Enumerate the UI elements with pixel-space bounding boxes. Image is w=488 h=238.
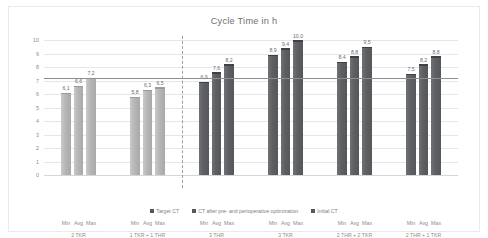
x-axis-tick-label: Max [155, 220, 165, 226]
bar-cap [199, 82, 209, 84]
bar-cap [268, 55, 278, 57]
y-axis-tick-label: 5 [36, 105, 39, 111]
x-axis-tick-label: Min [200, 220, 209, 226]
x-axis-group-label: 3 THR [209, 232, 224, 238]
chart-container: Cycle Time in h 012345678910 6,16,67,25,… [0, 0, 488, 238]
bar-fill [419, 64, 429, 175]
legend-item[interactable]: CT after pre- and perioperative optimiza… [192, 208, 298, 214]
bar: 8,8 [431, 56, 441, 175]
x-axis-tick-label: Min [131, 220, 140, 226]
bar-cap [406, 74, 416, 76]
gridline [44, 175, 458, 176]
chart-title: Cycle Time in h [0, 16, 488, 26]
y-axis-tick-label: 10 [33, 37, 39, 43]
x-axis-group-label: 1 TKR + 1 THR [130, 232, 165, 238]
gridline [44, 81, 458, 82]
bar-value-label: 10,0 [293, 33, 303, 39]
bar-cap [350, 56, 360, 58]
y-axis-tick-label: 6 [36, 91, 39, 97]
bar-cap [61, 93, 71, 95]
bar: 9,5 [362, 47, 372, 175]
bar-value-label: 7,2 [87, 70, 94, 76]
bar-cap [155, 87, 165, 89]
bar-cap [143, 90, 153, 92]
gridline [44, 121, 458, 122]
bar-value-label: 8,4 [338, 54, 345, 60]
plot-area: 012345678910 6,16,67,25,86,36,56,97,68,2… [44, 40, 458, 175]
bar: 7,5 [406, 74, 416, 175]
bar-value-label: 7,6 [213, 65, 220, 71]
gridline [44, 148, 458, 149]
bar-fill [199, 82, 209, 175]
bar: 7,2 [86, 78, 96, 175]
bar-fill [406, 74, 416, 175]
bar-value-label: 5,8 [131, 89, 138, 95]
x-axis-group-label: 3 TKR [278, 232, 293, 238]
bar-cap [293, 40, 303, 42]
bar-value-label: 9,4 [282, 41, 289, 47]
x-axis-tick-label: Max [86, 220, 96, 226]
x-axis-group-label: 2 TKR [71, 232, 86, 238]
bar-value-label: 8,2 [420, 57, 427, 63]
bar-fill [293, 40, 303, 175]
y-axis-tick-label: 4 [36, 118, 39, 124]
x-axis-tick-label: Min [62, 220, 71, 226]
bar: 5,8 [130, 97, 140, 175]
y-axis-tick-label: 7 [36, 78, 39, 84]
chart-legend: Target CTCT after pre- and perioperative… [0, 208, 488, 214]
legend-label: CT after pre- and perioperative optimiza… [198, 208, 298, 214]
x-axis-tick-label: Avg [350, 220, 359, 226]
x-axis-tick-label: Max [224, 220, 234, 226]
x-axis-group-label: 2 THR + 2 TKR [337, 232, 372, 238]
x-axis-group-label: 2 THR + 1 TKR [406, 232, 441, 238]
bar-fill [86, 78, 96, 175]
bar: 6,6 [74, 86, 84, 175]
bar: 8,8 [350, 56, 360, 175]
x-axis-tick-label: Min [338, 220, 347, 226]
bar: 10,0 [293, 40, 303, 175]
bar: 6,9 [199, 82, 209, 175]
bar: 9,4 [281, 48, 291, 175]
bar-fill [268, 55, 278, 175]
x-axis-tick-label: Avg [281, 220, 290, 226]
bar: 6,1 [61, 93, 71, 175]
bar: 6,5 [155, 87, 165, 175]
bar-fill [431, 56, 441, 175]
bar-fill [130, 97, 140, 175]
gridline [44, 162, 458, 163]
legend-swatch-icon [192, 209, 196, 213]
bar-cap [224, 64, 234, 66]
y-axis-tick-label: 9 [36, 51, 39, 57]
bar-value-label: 9,5 [363, 39, 370, 45]
bar-cap [74, 86, 84, 88]
y-axis-tick-label: 0 [36, 172, 39, 178]
group-separator-line [182, 36, 183, 188]
bar: 7,6 [212, 72, 222, 175]
bar-value-label: 6,1 [62, 85, 69, 91]
bar-value-label: 6,3 [144, 82, 151, 88]
x-axis-tick-label: Avg [419, 220, 428, 226]
y-axis-tick-label: 8 [36, 64, 39, 70]
bar-value-label: 8,8 [432, 49, 439, 55]
gridline [44, 108, 458, 109]
bar-fill [350, 56, 360, 175]
bar-cap [337, 62, 347, 64]
bar: 6,3 [143, 90, 153, 175]
y-axis-tick-label: 1 [36, 159, 39, 165]
gridline [44, 67, 458, 68]
bar-fill [281, 48, 291, 175]
legend-item[interactable]: Target CT [150, 208, 179, 214]
bar-value-label: 6,6 [75, 78, 82, 84]
gridline [44, 94, 458, 95]
gridline [44, 54, 458, 55]
legend-swatch-icon [150, 209, 154, 213]
bar-fill [74, 86, 84, 175]
y-axis-tick-label: 2 [36, 145, 39, 151]
bar-fill [143, 90, 153, 175]
x-axis-tick-label: Max [362, 220, 372, 226]
x-axis-tick-label: Min [407, 220, 416, 226]
x-axis-tick-label: Max [431, 220, 441, 226]
x-axis-tick-label: Avg [143, 220, 152, 226]
x-axis-tick-label: Avg [74, 220, 83, 226]
legend-item[interactable]: Initial CT [311, 208, 338, 214]
